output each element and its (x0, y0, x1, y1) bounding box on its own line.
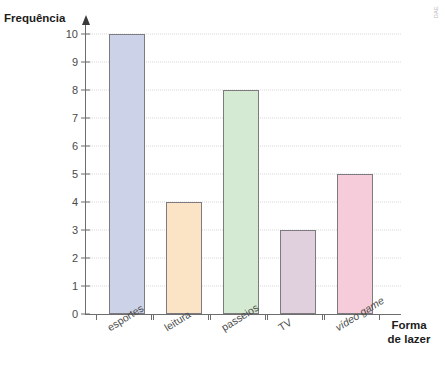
y-tick-mark (81, 174, 90, 175)
x-tick-mark (210, 314, 211, 320)
y-tick-mark (81, 286, 90, 287)
y-tick-label: 3 (72, 224, 78, 236)
x-tick-mark (267, 314, 268, 320)
x-tick-mark (151, 314, 152, 320)
y-tick-label: 8 (72, 84, 78, 96)
y-axis-title: Frequência (4, 12, 65, 24)
bar-chart-figure: DAE Frequência Forma de lazer 0123456789… (0, 0, 439, 368)
y-tick-label: 0 (72, 308, 78, 320)
x-tick-mark (96, 314, 97, 320)
x-axis-title-line-2: de lazer (381, 332, 437, 346)
bar (223, 90, 259, 314)
x-tick-mark (379, 314, 380, 320)
y-tick-mark (81, 90, 90, 91)
y-tick-label: 6 (72, 140, 78, 152)
y-tick-label: 10 (66, 28, 78, 40)
y-tick-mark (81, 314, 90, 315)
x-axis-title-line-1: Forma (381, 318, 437, 332)
y-tick-mark (81, 62, 90, 63)
x-tick-mark (322, 314, 323, 320)
x-tick-mark (153, 314, 154, 320)
y-tick-mark (81, 258, 90, 259)
credit-mark: DAE (433, 6, 439, 18)
bar (337, 174, 373, 314)
y-tick-label: 1 (72, 280, 78, 292)
y-tick-mark (81, 118, 90, 119)
y-axis-arrow-icon (82, 15, 90, 25)
y-tick-label: 4 (72, 196, 78, 208)
y-tick-label: 5 (72, 168, 78, 180)
x-tick-mark (265, 314, 266, 320)
y-tick-label: 7 (72, 112, 78, 124)
y-tick-mark (81, 146, 90, 147)
y-tick-label: 2 (72, 252, 78, 264)
x-tick-mark (208, 314, 209, 320)
bar (280, 230, 316, 314)
category-label-3: TV (276, 316, 294, 333)
x-axis-title: Forma de lazer (381, 318, 437, 346)
bar (109, 34, 145, 314)
x-tick-mark (324, 314, 325, 320)
y-tick-mark (81, 202, 90, 203)
y-tick-mark (81, 230, 90, 231)
bar (166, 202, 202, 314)
y-tick-label: 9 (72, 56, 78, 68)
y-axis-line (85, 24, 86, 315)
plot-area: 012345678910 (85, 24, 401, 315)
y-tick-mark (81, 34, 90, 35)
